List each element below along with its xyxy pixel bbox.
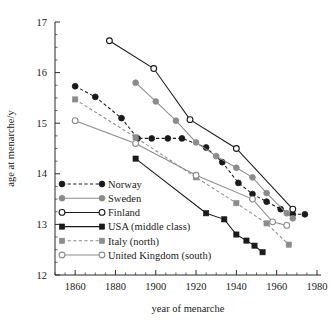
data-point	[99, 238, 104, 243]
data-point	[222, 217, 227, 222]
x-tick-label: 1940	[226, 281, 247, 292]
data-point	[107, 38, 113, 44]
data-point	[59, 252, 65, 258]
legend-label-3: USA (middle class)	[108, 221, 191, 233]
data-point	[244, 238, 249, 243]
data-point	[99, 224, 104, 229]
data-point	[290, 215, 296, 221]
x-tick-label: 1980	[306, 281, 327, 292]
data-point	[92, 94, 98, 100]
data-point	[72, 83, 78, 89]
data-point	[72, 118, 78, 124]
legend-label-4: Italy (north)	[108, 236, 160, 248]
data-point	[233, 146, 239, 152]
x-tick-label: 1960	[266, 281, 287, 292]
data-point	[286, 242, 291, 247]
data-point	[235, 180, 241, 186]
data-point	[213, 153, 219, 159]
data-point	[133, 156, 138, 161]
chart-figure: 1213141516171860188019001920194019601980…	[0, 0, 336, 321]
data-point	[290, 206, 296, 212]
data-point	[252, 243, 257, 248]
data-point	[250, 174, 256, 180]
data-point	[234, 232, 239, 237]
data-point	[133, 80, 139, 86]
data-point	[193, 172, 199, 178]
y-axis-title: age at menarche/y	[5, 110, 16, 187]
data-point	[153, 99, 159, 105]
data-point	[260, 250, 265, 255]
x-tick-label: 1900	[145, 281, 166, 292]
legend-label-5: United Kingdom (south)	[108, 250, 212, 262]
series-line-1	[136, 83, 293, 219]
data-point	[264, 190, 270, 196]
data-point	[284, 223, 290, 229]
x-tick-label: 1880	[105, 281, 126, 292]
data-point	[250, 196, 256, 202]
data-point	[234, 201, 239, 206]
data-point	[73, 97, 78, 102]
data-point	[99, 210, 105, 216]
data-point	[165, 135, 171, 141]
data-point	[284, 210, 290, 216]
data-point	[264, 199, 270, 205]
data-point	[99, 181, 105, 187]
data-point	[59, 238, 64, 243]
data-point	[233, 165, 239, 171]
x-axis-title: year of menarche	[152, 303, 225, 314]
data-point	[302, 211, 308, 217]
data-point	[264, 221, 269, 226]
data-point	[173, 118, 179, 124]
data-point	[99, 252, 105, 258]
y-tick-label: 16	[37, 67, 48, 78]
y-tick-label: 15	[37, 118, 48, 129]
data-point	[59, 224, 64, 229]
data-point	[204, 211, 209, 216]
legend-label-2: Finland	[108, 207, 141, 218]
data-point	[119, 115, 125, 121]
data-point	[59, 181, 65, 187]
chart-canvas: 1213141516171860188019001920194019601980…	[0, 0, 336, 321]
data-point	[179, 135, 185, 141]
data-point	[99, 195, 105, 201]
legend-label-1: Sweden	[108, 193, 142, 204]
data-point	[151, 66, 157, 72]
data-point	[149, 135, 155, 141]
y-tick-label: 12	[37, 270, 48, 281]
data-point	[187, 117, 193, 123]
data-point	[133, 141, 139, 147]
data-point	[59, 195, 65, 201]
data-point	[59, 210, 65, 216]
y-tick-label: 17	[37, 17, 48, 28]
x-tick-label: 1920	[186, 281, 207, 292]
y-tick-label: 13	[37, 219, 48, 230]
x-tick-label: 1860	[65, 281, 86, 292]
data-point	[193, 140, 199, 146]
data-point	[270, 219, 276, 225]
data-point	[133, 135, 138, 140]
y-tick-label: 14	[37, 168, 48, 179]
legend-label-0: Norway	[108, 179, 143, 190]
